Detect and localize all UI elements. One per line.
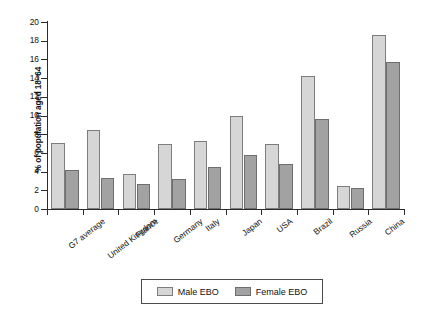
legend-entry: Male EBO [157, 287, 219, 297]
x-tick [261, 210, 262, 215]
x-tick [226, 210, 227, 215]
bar-male [337, 186, 351, 209]
legend-label: Female EBO [256, 287, 308, 297]
x-tick [47, 210, 48, 215]
x-axis-label: Germany [171, 216, 204, 245]
bar-male [230, 116, 244, 209]
x-tick [83, 210, 84, 215]
bar-female [65, 170, 79, 209]
x-tick [297, 210, 298, 215]
x-tick [404, 210, 405, 215]
y-tick-label: 10 [30, 110, 39, 120]
bar-female [315, 119, 329, 209]
y-tick-label: 18 [30, 35, 39, 45]
bar-female [279, 164, 293, 209]
bar-female [208, 167, 222, 209]
legend-entry: Female EBO [235, 287, 308, 297]
y-tick-label: 16 [30, 54, 39, 64]
y-tick-label: 14 [30, 73, 39, 83]
x-axis-label: Japan [240, 216, 264, 238]
bar-male [301, 76, 315, 209]
bar-male [51, 143, 65, 209]
bar-female [244, 155, 258, 209]
legend-swatch-male [157, 287, 173, 296]
y-tick-label: 0 [34, 204, 39, 214]
bar-male [87, 130, 101, 209]
x-tick [118, 210, 119, 215]
bar-male [372, 35, 386, 209]
x-tick [368, 210, 369, 215]
bar-female [351, 188, 365, 209]
bar-female [137, 184, 151, 209]
x-axis-label: USA [275, 216, 295, 234]
bar-male [265, 144, 279, 209]
bar-male [123, 174, 137, 209]
y-tick-label: 4 [34, 166, 39, 176]
bar-female [386, 62, 400, 209]
bar-chart: % of population aged 18–64 2018161412108… [0, 0, 424, 320]
y-tick-label: 6 [34, 147, 39, 157]
x-axis-label: Brazil [311, 216, 334, 237]
legend-swatch-female [235, 287, 251, 296]
bar-male [194, 141, 208, 209]
legend-label: Male EBO [178, 287, 219, 297]
y-tick-label: 12 [30, 91, 39, 101]
x-tick [190, 210, 191, 215]
x-axis-label: G7 average [66, 216, 107, 251]
plot-area [47, 22, 404, 209]
chart-legend: Male EBOFemale EBO [141, 279, 323, 304]
y-tick-label: 8 [34, 129, 39, 139]
bar-male [158, 144, 172, 209]
y-tick-label: 20 [30, 17, 39, 27]
bar-female [172, 179, 186, 209]
x-axis-label: Italy [203, 216, 221, 233]
y-tick-label: 2 [34, 185, 39, 195]
x-axis-label: Russia [348, 216, 374, 240]
x-tick [154, 210, 155, 215]
bar-female [101, 178, 115, 209]
x-axis-label: China [383, 216, 406, 237]
x-tick [333, 210, 334, 215]
